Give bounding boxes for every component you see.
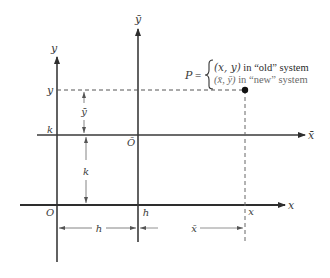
new-origin-label: Ō	[127, 137, 135, 148]
k-dimension-label: k	[83, 166, 89, 177]
old-coords: (x, y)	[214, 61, 241, 73]
old-y-axis-label: y	[50, 42, 58, 55]
new-coords: (x̄, ȳ)	[214, 74, 236, 86]
x-value-label: x	[248, 206, 254, 217]
new-y-axis-label: ȳ	[134, 13, 142, 26]
point-p-equals: =	[195, 69, 201, 81]
point-p-annotation: P = (x, y) in “old” system (x̄, ȳ) in “n…	[184, 60, 309, 89]
new-system-text: in “new” system	[236, 74, 308, 85]
old-system-line: (x, y) in “old” system	[214, 61, 309, 73]
old-x-axis-label: x	[288, 199, 295, 212]
brace	[205, 60, 213, 89]
point-p	[242, 87, 248, 93]
y-value-label: y	[46, 84, 54, 97]
k-value-label: k	[47, 124, 53, 135]
point-p-name: P	[184, 69, 193, 82]
h-value-label: h	[143, 207, 149, 218]
old-system-text: in “old” system	[241, 62, 309, 73]
xbar-dimension-label: x̄	[191, 223, 197, 234]
ybar-dimension-label: ȳ	[80, 106, 87, 117]
coordinate-translation-diagram: y ȳ x̄ x O Ō y k h x ȳ k h x̄ P = (x, y)…	[0, 0, 330, 278]
new-x-axis-label: x̄	[308, 129, 315, 142]
new-system-line: (x̄, ȳ) in “new” system	[214, 74, 308, 86]
old-origin-label: O	[46, 207, 54, 218]
h-dimension-label: h	[96, 223, 102, 234]
